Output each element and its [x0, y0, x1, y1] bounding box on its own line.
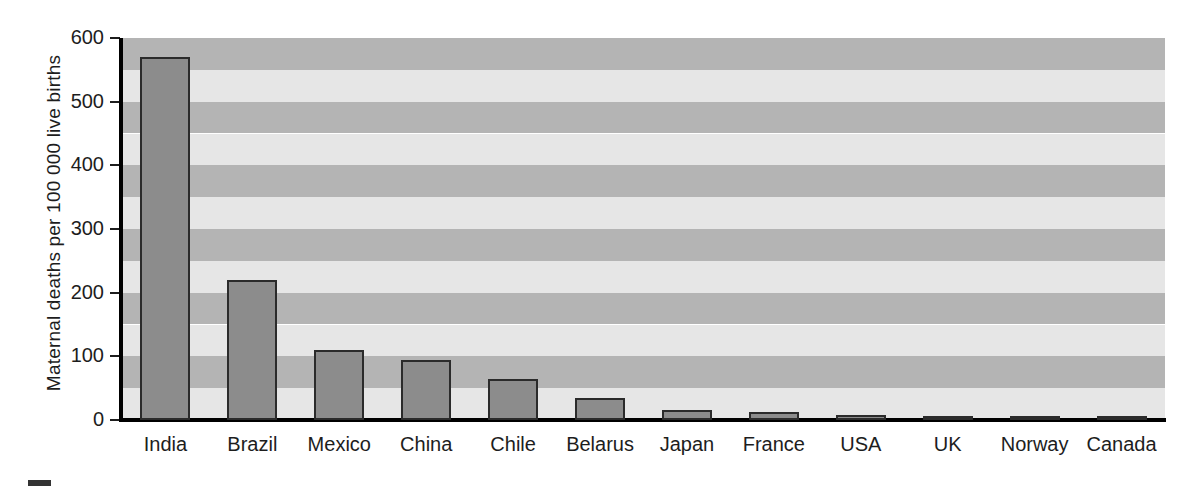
- y-tick-label: 200: [56, 282, 104, 302]
- y-tick-label: 600: [56, 27, 104, 47]
- x-tick-label-uk: UK: [904, 432, 991, 456]
- y-tick-label: 100: [56, 345, 104, 365]
- x-tick-label-japan: Japan: [644, 432, 731, 456]
- x-tick-label-india: India: [122, 432, 209, 456]
- page-rule-marker-icon: [28, 480, 51, 486]
- x-tick-label-norway: Norway: [991, 432, 1078, 456]
- bar-france: [749, 412, 799, 420]
- bar-brazil: [227, 280, 277, 420]
- x-tick-label-mexico: Mexico: [296, 432, 383, 456]
- bar-series: [122, 38, 1165, 420]
- x-tick-label-france: France: [730, 432, 817, 456]
- bar-chile: [488, 379, 538, 420]
- x-tick-label-belarus: Belarus: [557, 432, 644, 456]
- x-tick-label-china: China: [383, 432, 470, 456]
- x-tick-label-brazil: Brazil: [209, 432, 296, 456]
- bar-belarus: [575, 398, 625, 420]
- x-tick-label-usa: USA: [817, 432, 904, 456]
- bar-mexico: [314, 350, 364, 420]
- y-tick-label: 400: [56, 154, 104, 174]
- bar-china: [401, 360, 451, 420]
- bar-japan: [662, 410, 712, 420]
- bar-norway: [1010, 416, 1060, 420]
- y-tick-label: 300: [56, 218, 104, 238]
- bar-uk: [923, 416, 973, 420]
- bar-canada: [1097, 416, 1147, 420]
- y-tick-label: 500: [56, 91, 104, 111]
- x-tick-label-canada: Canada: [1078, 432, 1165, 456]
- bar-india: [140, 57, 190, 420]
- bar-chart-figure: Maternal deaths per 100 000 live births …: [0, 0, 1199, 489]
- bar-usa: [836, 415, 886, 420]
- x-axis-category-labels: IndiaBrazilMexicoChinaChileBelarusJapanF…: [122, 432, 1165, 466]
- x-tick-label-chile: Chile: [470, 432, 557, 456]
- y-tick-label: 0: [56, 409, 104, 429]
